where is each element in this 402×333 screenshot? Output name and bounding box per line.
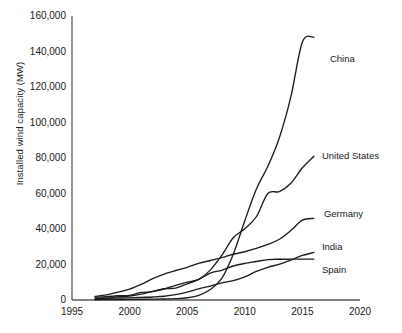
- series-label: China: [330, 53, 355, 64]
- series-label: Germany: [324, 208, 363, 219]
- series-label: India: [322, 241, 343, 252]
- series-label: United States: [322, 150, 379, 161]
- series-label: Spain: [322, 264, 346, 275]
- plot-area: [0, 0, 402, 333]
- series-lines: [95, 36, 314, 300]
- axes: [72, 16, 360, 300]
- wind-capacity-line-chart: Installed wind capacity (MW) 020,00040,0…: [0, 0, 402, 333]
- series-line: [95, 218, 314, 296]
- series-line: [95, 36, 314, 300]
